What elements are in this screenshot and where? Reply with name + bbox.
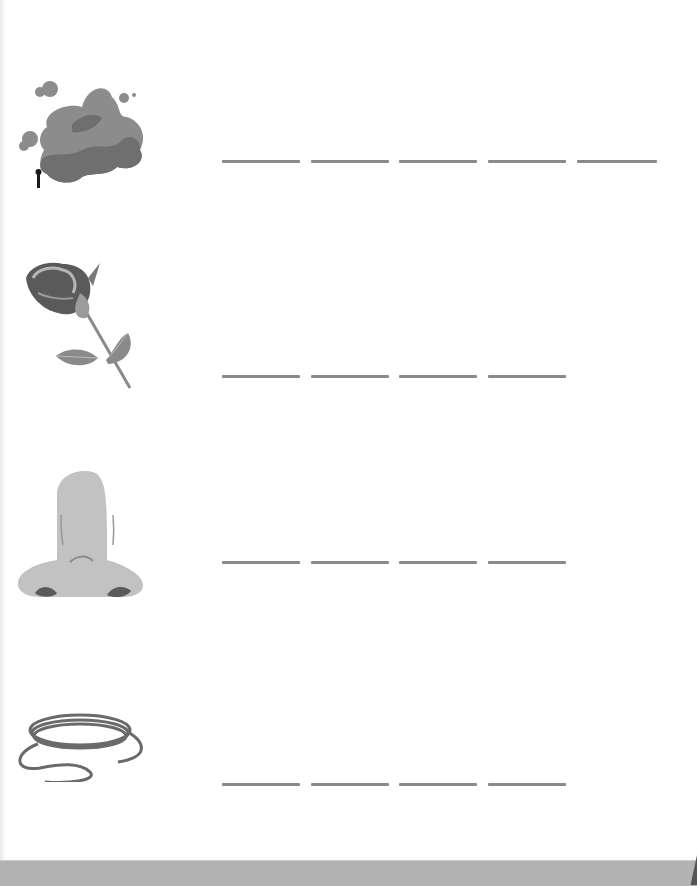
letter-blank[interactable] — [399, 160, 477, 163]
page-edge-shadow — [0, 0, 6, 860]
page-bottom-bar — [0, 860, 697, 886]
letter-blank[interactable] — [399, 561, 477, 564]
worksheet-page — [0, 0, 697, 860]
letter-blank[interactable] — [222, 375, 300, 378]
rope-icon — [10, 702, 160, 782]
letter-blank[interactable] — [222, 783, 300, 786]
letter-blank[interactable] — [222, 561, 300, 564]
letter-blank[interactable] — [488, 561, 566, 564]
letter-blank[interactable] — [222, 160, 300, 163]
letter-blank[interactable] — [488, 160, 566, 163]
letter-blank[interactable] — [311, 561, 389, 564]
smoke-icon — [12, 62, 152, 197]
letter-blank[interactable] — [311, 375, 389, 378]
nose-icon — [15, 465, 145, 600]
letter-blank[interactable] — [311, 783, 389, 786]
letter-blank[interactable] — [488, 375, 566, 378]
letter-blank[interactable] — [399, 375, 477, 378]
letter-blank[interactable] — [399, 783, 477, 786]
rose-icon — [18, 258, 138, 394]
letter-blank[interactable] — [577, 160, 657, 163]
letter-blank[interactable] — [311, 160, 389, 163]
letter-blank[interactable] — [488, 783, 566, 786]
